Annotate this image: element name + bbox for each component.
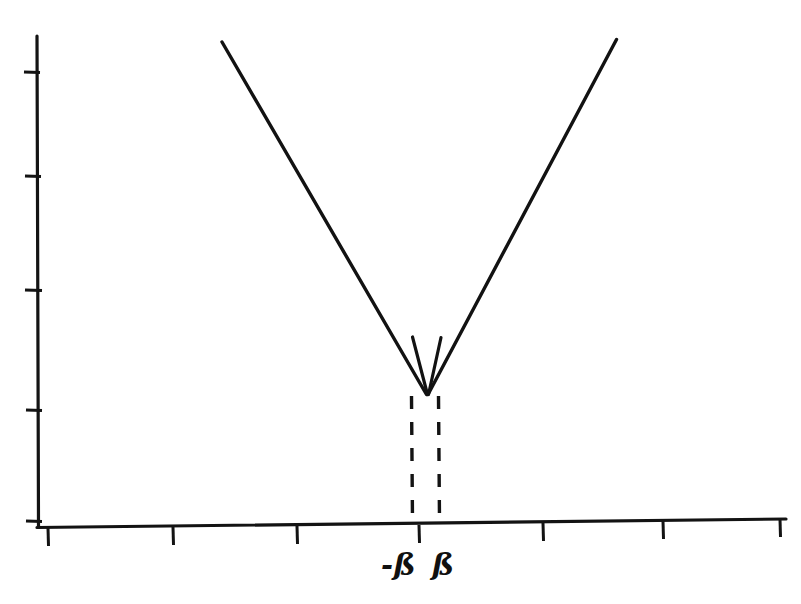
inner-v-right-arm xyxy=(429,338,442,395)
plot-canvas xyxy=(0,0,801,604)
x-axis-tick xyxy=(543,523,544,541)
y-axis-tick xyxy=(26,410,42,411)
x-axis-tick xyxy=(173,527,174,545)
x-axis-tick xyxy=(663,521,664,539)
x-axis-line xyxy=(37,519,786,528)
y-axis-tick xyxy=(25,290,42,291)
y-axis-tick xyxy=(24,72,40,73)
x-axis-label-negative-beta: -ß xyxy=(381,548,416,582)
y-axis-tick xyxy=(26,521,42,522)
outer-v-right-arm xyxy=(428,40,617,395)
x-axis-label-positive-beta: ß xyxy=(432,548,455,582)
figure-container: -ß ß xyxy=(0,0,801,604)
x-axis-tick xyxy=(297,526,298,544)
x-axis-tick xyxy=(419,525,420,543)
outer-v-left-arm xyxy=(222,42,427,395)
x-axis-tick xyxy=(48,528,49,546)
dashed-guide-pos-beta xyxy=(439,396,440,520)
y-axis-line xyxy=(37,36,39,527)
dashed-guide-neg-beta xyxy=(412,396,413,521)
x-axis-tick xyxy=(780,519,781,537)
y-axis-tick xyxy=(25,176,41,177)
